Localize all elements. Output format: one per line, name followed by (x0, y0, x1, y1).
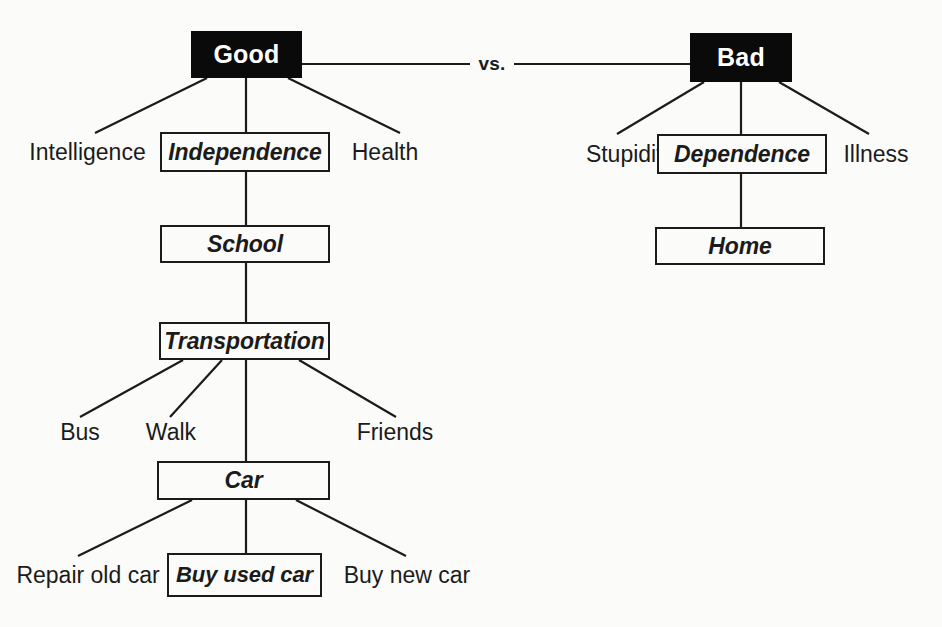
edge-transportation-walk (170, 360, 222, 417)
node-health: Health (343, 137, 427, 167)
edge-good-health (288, 78, 400, 133)
edge-bad-illness (779, 82, 869, 134)
node-independence[interactable]: Independence (160, 132, 330, 172)
node-health-label: Health (352, 140, 418, 164)
comparator-vs-label: vs. (478, 54, 505, 74)
node-dependence-label: Dependence (674, 142, 810, 166)
node-independence-label: Independence (168, 140, 321, 164)
node-home[interactable]: Home (655, 227, 825, 265)
node-illness-label: Illness (843, 142, 908, 166)
node-school-label: School (207, 232, 283, 256)
node-buy-used-car[interactable]: Buy used car (167, 553, 322, 597)
comparator-vs: vs. (470, 52, 514, 76)
node-school[interactable]: School (160, 225, 330, 263)
node-intelligence-label: Intelligence (29, 140, 145, 164)
node-walk-label: Walk (146, 420, 196, 444)
node-good-label: Good (213, 41, 279, 67)
node-home-label: Home (708, 234, 772, 258)
edge-car-buy-new-car (296, 500, 406, 556)
node-buy-used-car-label: Buy used car (176, 563, 313, 586)
edge-good-intelligence (95, 78, 207, 133)
node-car[interactable]: Car (157, 461, 330, 500)
node-bad[interactable]: Bad (690, 33, 792, 82)
node-dependence[interactable]: Dependence (657, 134, 827, 174)
edge-bad-stupidity (617, 82, 704, 134)
node-buy-new-car-label: Buy new car (344, 563, 471, 587)
node-transportation-label: Transportation (164, 329, 324, 353)
edge-transportation-bus (80, 360, 183, 417)
node-bus-label: Bus (60, 420, 100, 444)
node-repair-old-car: Repair old car (8, 560, 168, 590)
node-car-label: Car (224, 468, 262, 492)
node-buy-new-car: Buy new car (328, 560, 486, 590)
node-repair-old-car-label: Repair old car (16, 563, 159, 587)
node-bad-label: Bad (717, 44, 765, 70)
node-illness: Illness (831, 139, 921, 169)
node-friends: Friends (349, 417, 441, 447)
edge-transportation-friends (299, 360, 396, 417)
node-intelligence: Intelligence (20, 137, 155, 167)
node-walk: Walk (138, 417, 204, 447)
node-bus: Bus (47, 417, 113, 447)
node-friends-label: Friends (357, 420, 434, 444)
connector-lines (0, 0, 942, 627)
node-good[interactable]: Good (191, 31, 302, 78)
diagram-canvas: Good vs. Bad Intelligence Independence H… (0, 0, 942, 627)
node-transportation[interactable]: Transportation (159, 322, 330, 360)
edge-car-repair-old-car (78, 500, 192, 556)
